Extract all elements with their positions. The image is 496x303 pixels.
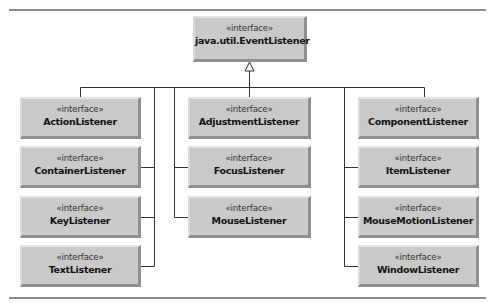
interface-name: TextListener [22, 263, 138, 277]
interface-box-mouse-listener: «interface» MouseListener [188, 196, 311, 238]
interface-name: ContainerListener [22, 164, 138, 178]
generalization-arrow-icon [245, 62, 254, 71]
stereotype-label: «interface» [360, 104, 476, 115]
stereotype-label: «interface» [22, 252, 138, 263]
interface-name: ComponentListener [360, 115, 476, 129]
interface-name: AdjustmentListener [190, 115, 308, 129]
interface-name: MouseMotionListener [360, 214, 476, 228]
interface-box-component-listener: «interface» ComponentListener [358, 97, 479, 139]
interface-box-text-listener: «interface» TextListener [20, 245, 141, 287]
stereotype-label: «interface» [360, 203, 476, 214]
interface-box-focus-listener: «interface» FocusListener [188, 146, 311, 188]
interface-box-key-listener: «interface» KeyListener [20, 196, 141, 238]
interface-box-mouse-motion-listener: «interface» MouseMotionListener [358, 196, 479, 238]
stereotype-label: «interface» [360, 252, 476, 263]
interface-name: WindowListener [360, 263, 476, 277]
root-interface-box: «interface» java.util.EventListener [193, 16, 307, 62]
interface-name: MouseListener [190, 214, 308, 228]
stereotype-label: «interface» [190, 203, 308, 214]
stereotype-label: «interface» [22, 104, 138, 115]
stereotype-label: «interface» [190, 104, 308, 115]
stereotype-label: «interface» [190, 153, 308, 164]
interface-name: KeyListener [22, 214, 138, 228]
stereotype-label: «interface» [22, 153, 138, 164]
stereotype-label: «interface» [195, 23, 304, 34]
interface-name: FocusListener [190, 164, 308, 178]
interface-box-window-listener: «interface» WindowListener [358, 245, 479, 287]
stereotype-label: «interface» [360, 153, 476, 164]
interface-box-action-listener: «interface» ActionListener [20, 97, 141, 139]
interface-box-container-listener: «interface» ContainerListener [20, 146, 141, 188]
stereotype-label: «interface» [22, 203, 138, 214]
interface-box-item-listener: «interface» ItemListener [358, 146, 479, 188]
interface-name: java.util.EventListener [195, 34, 304, 48]
interface-name: ItemListener [360, 164, 476, 178]
interface-box-adjustment-listener: «interface» AdjustmentListener [188, 97, 311, 139]
interface-name: ActionListener [22, 115, 138, 129]
